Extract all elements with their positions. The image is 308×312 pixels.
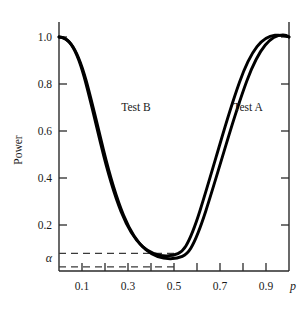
x-tick-label-0.1: 0.1: [75, 280, 90, 292]
power-curve-chart: 1.0 0.8 0.6 0.4 0.2 α 0.1 0.3 0.5 0.7 0.…: [0, 0, 308, 312]
y-axis-title: Power: [12, 135, 24, 165]
x-tick-label-0.5: 0.5: [167, 280, 182, 292]
x-axis-title: p: [289, 279, 296, 293]
chart-background: [0, 0, 308, 312]
alpha-level-label: α: [46, 251, 53, 265]
test-a-label: Test A: [233, 101, 263, 113]
x-tick-label-0.9: 0.9: [259, 280, 274, 292]
x-tick-label-0.3: 0.3: [121, 280, 136, 292]
y-tick-label-0.8: 0.8: [38, 78, 53, 90]
y-tick-label-0.2: 0.2: [38, 219, 53, 231]
y-tick-label-1.0: 1.0: [38, 31, 53, 43]
test-b-label: Test B: [121, 101, 151, 113]
x-tick-label-0.7: 0.7: [213, 280, 228, 292]
y-tick-label-0.4: 0.4: [38, 172, 53, 184]
y-tick-label-0.6: 0.6: [38, 125, 53, 137]
power-curve-figure: 1.0 0.8 0.6 0.4 0.2 α 0.1 0.3 0.5 0.7 0.…: [0, 0, 308, 312]
